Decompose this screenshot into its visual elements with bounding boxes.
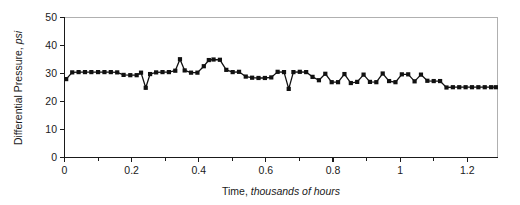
data-point-marker <box>464 85 468 89</box>
y-tick-label-30: 30 <box>45 67 57 79</box>
x-axis-tick-labels: 00.20.40.60.811.2 <box>62 164 475 176</box>
data-point-marker <box>96 70 100 74</box>
data-point-marker <box>374 80 378 84</box>
data-point-marker <box>135 73 139 77</box>
data-point-marker <box>494 85 498 89</box>
y-tick-label-40: 40 <box>45 39 57 51</box>
data-point-marker <box>476 85 480 89</box>
data-point-marker <box>355 80 359 84</box>
data-point-marker <box>77 70 81 74</box>
data-point-marker <box>109 70 113 74</box>
data-point-marker <box>250 76 254 80</box>
data-point-marker <box>419 73 423 77</box>
data-point-marker <box>470 85 474 89</box>
x-tick-label-0.6: 0.6 <box>259 164 274 176</box>
y-axis-ticks <box>60 18 65 158</box>
data-point-marker <box>83 70 87 74</box>
plot-frame <box>65 18 498 158</box>
x-tick-label-0.8: 0.8 <box>326 164 341 176</box>
y-axis-title: Differential Pressure, psi <box>12 30 24 145</box>
data-point-marker <box>144 86 148 90</box>
data-point-marker <box>269 75 273 79</box>
data-point-marker <box>323 72 327 76</box>
data-point-marker <box>451 85 455 89</box>
data-point-marker <box>202 64 206 68</box>
x-tick-label-0: 0 <box>62 164 68 176</box>
data-point-marker <box>304 70 308 74</box>
data-point-marker <box>154 70 158 74</box>
data-point-marker <box>121 73 125 77</box>
data-point-marker <box>64 77 68 81</box>
data-point-marker <box>244 74 248 78</box>
y-axis-tick-labels: 01020304050 <box>45 11 57 163</box>
data-point-marker <box>387 79 391 83</box>
data-point-marker <box>128 73 132 77</box>
data-point-marker <box>432 79 436 83</box>
data-point-marker <box>282 70 286 74</box>
data-point-marker <box>330 80 334 84</box>
data-point-marker <box>102 70 106 74</box>
data-point-marker <box>207 58 211 62</box>
data-point-marker <box>89 70 93 74</box>
data-point-marker <box>317 78 321 82</box>
data-point-marker <box>406 72 410 76</box>
data-point-marker <box>139 71 143 75</box>
data-point-marker <box>287 87 291 91</box>
y-tick-label-50: 50 <box>45 11 57 23</box>
data-point-marker <box>400 72 404 76</box>
data-point-marker <box>444 85 448 89</box>
data-point-marker <box>167 70 171 74</box>
data-point-marker <box>115 70 119 74</box>
data-point-marker <box>412 79 416 83</box>
data-point-marker <box>256 76 260 80</box>
data-point-marker <box>218 58 222 62</box>
data-point-marker <box>178 57 182 61</box>
data-point-marker <box>393 80 397 84</box>
data-point-marker <box>183 68 187 72</box>
data-point-marker <box>342 72 346 76</box>
chart-figure: 01020304050 00.20.40.60.811.2 Differenti… <box>0 0 520 205</box>
data-point-marker <box>368 80 372 84</box>
y-tick-label-20: 20 <box>45 95 57 107</box>
data-point-marker <box>211 57 215 61</box>
x-axis-ticks <box>65 158 468 163</box>
y-tick-label-0: 0 <box>51 151 57 163</box>
data-point-marker <box>291 70 295 74</box>
data-point-marker <box>237 70 241 74</box>
data-point-marker <box>336 80 340 84</box>
data-point-marker <box>148 72 152 76</box>
x-tick-label-1.2: 1.2 <box>460 164 475 176</box>
data-point-marker <box>298 70 302 74</box>
y-tick-label-10: 10 <box>45 123 57 135</box>
x-axis-title: Time, thousands of hours <box>222 185 341 197</box>
data-point-marker <box>195 71 199 75</box>
differential-pressure-line-chart: 01020304050 00.20.40.60.811.2 Differenti… <box>0 0 520 205</box>
x-tick-label-0.2: 0.2 <box>124 164 139 176</box>
data-point-marker <box>489 85 493 89</box>
data-point-marker <box>310 75 314 79</box>
x-tick-label-1: 1 <box>397 164 403 176</box>
data-point-marker <box>438 79 442 83</box>
data-point-marker <box>381 71 385 75</box>
data-point-marker <box>276 70 280 74</box>
data-point-marker <box>483 85 487 89</box>
data-series-line <box>64 57 498 91</box>
data-point-marker <box>189 71 193 75</box>
x-tick-label-0.4: 0.4 <box>191 164 206 176</box>
data-point-marker <box>457 85 461 89</box>
data-point-marker <box>173 69 177 73</box>
data-point-marker <box>263 76 267 80</box>
data-point-marker <box>231 70 235 74</box>
data-point-marker <box>160 70 164 74</box>
data-point-marker <box>425 79 429 83</box>
data-point-marker <box>70 70 74 74</box>
data-point-marker <box>224 68 228 72</box>
data-point-marker <box>349 81 353 85</box>
data-point-marker <box>361 73 365 77</box>
